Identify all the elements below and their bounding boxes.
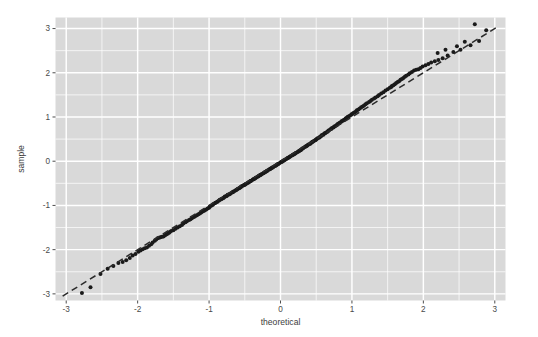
y-tick-label: 3 xyxy=(45,24,50,33)
data-point xyxy=(128,256,132,260)
x-tick-label: -1 xyxy=(205,305,213,314)
data-point xyxy=(168,230,172,234)
data-point xyxy=(391,83,395,87)
data-point xyxy=(406,73,410,77)
data-point xyxy=(436,58,440,62)
data-point xyxy=(424,63,428,67)
data-point xyxy=(463,40,467,44)
y-axis-title: sample xyxy=(16,145,26,173)
data-point xyxy=(433,59,437,63)
data-point xyxy=(436,51,440,55)
data-point xyxy=(410,70,414,74)
x-tick-label: -3 xyxy=(63,305,71,314)
data-point xyxy=(484,28,488,32)
y-tick-label: 2 xyxy=(45,69,50,78)
x-tick-label: 0 xyxy=(278,305,283,314)
data-point xyxy=(89,285,93,289)
data-point xyxy=(80,291,84,295)
qq-plot-canvas: -3-2-10123 -3-2-10123 theoretical sample xyxy=(0,0,538,337)
x-tick-label: 1 xyxy=(350,305,355,314)
y-tick-label: 1 xyxy=(45,113,50,122)
y-tick-label: -1 xyxy=(43,201,51,210)
data-point xyxy=(414,68,418,72)
x-tick-label: 3 xyxy=(493,305,498,314)
y-tick-label: -3 xyxy=(43,290,51,299)
data-point xyxy=(134,252,138,256)
qq-plot-figure: -3-2-10123 -3-2-10123 theoretical sample xyxy=(0,0,538,337)
data-point xyxy=(143,246,147,250)
data-point xyxy=(151,241,155,245)
y-tick-label: 0 xyxy=(45,157,50,166)
data-point xyxy=(473,22,477,26)
data-point xyxy=(124,258,128,262)
x-axis-title: theoretical xyxy=(261,317,301,327)
x-tick-label: -2 xyxy=(134,305,142,314)
y-tick-label: -2 xyxy=(43,246,51,255)
data-point xyxy=(444,48,448,52)
data-point xyxy=(441,56,445,60)
data-point xyxy=(429,61,433,65)
data-point xyxy=(455,44,459,48)
x-tick-label: 2 xyxy=(421,305,426,314)
data-point xyxy=(419,66,423,70)
data-point xyxy=(469,43,473,47)
data-point xyxy=(403,75,407,79)
